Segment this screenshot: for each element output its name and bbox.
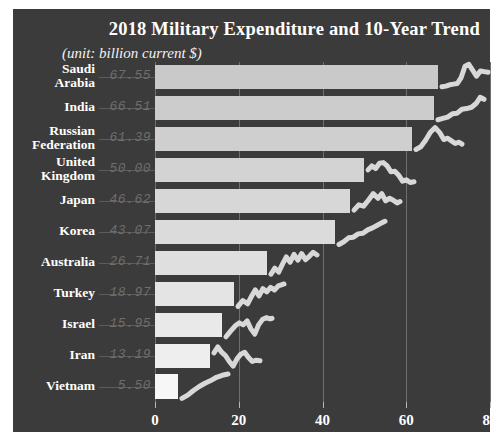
country-label-line: Kingdom <box>41 168 95 183</box>
chart-subtitle: (unit: billion current $) <box>62 45 202 62</box>
x-tick-label: 40 <box>315 412 330 429</box>
value-label: 67.55 <box>103 68 151 83</box>
value-label: 66.51 <box>103 99 151 114</box>
y-axis-country-label: Turkey <box>5 286 95 300</box>
bar <box>155 313 222 337</box>
y-axis-country-label: RussianFederation <box>5 124 95 152</box>
bar <box>155 189 350 213</box>
value-label: 26.71 <box>103 254 151 269</box>
bar <box>155 96 434 120</box>
sparkline <box>438 94 484 122</box>
tick-mark-20 <box>239 402 240 408</box>
x-tick-label: 60 <box>399 412 414 429</box>
sparkline-path <box>214 347 260 366</box>
bar <box>155 65 438 89</box>
plot-area: 020406080 <box>155 62 490 402</box>
bar <box>155 374 178 398</box>
sparkline <box>442 63 488 91</box>
sparkline-path <box>182 374 228 398</box>
country-label-line: Australia <box>41 254 95 269</box>
y-axis-country-label: Iran <box>5 348 95 362</box>
bar <box>155 158 364 182</box>
country-label-line: Israel <box>62 316 95 331</box>
sparkline <box>271 249 317 277</box>
bar <box>155 220 335 244</box>
sparkline-path <box>354 193 400 210</box>
country-label-line: Federation <box>32 137 95 152</box>
country-label-line: India <box>64 99 95 114</box>
tick-mark-80 <box>490 402 491 408</box>
bar <box>155 127 412 151</box>
y-axis-country-label: Israel <box>5 317 95 331</box>
country-label-line: Vietnam <box>46 378 95 393</box>
sparkline-path <box>438 97 484 119</box>
sparkline <box>354 187 400 215</box>
country-label-line: Iran <box>69 347 95 362</box>
sparkline <box>416 125 462 153</box>
sparkline-path <box>226 317 272 336</box>
x-tick-label: 80 <box>483 412 497 429</box>
country-label-line: Russian <box>49 123 95 138</box>
sparkline <box>182 372 228 400</box>
x-tick-label: 20 <box>231 412 246 429</box>
sparkline-path <box>442 65 488 87</box>
y-axis-country-label: Korea <box>5 224 95 238</box>
chart-panel: 2018 Military Expenditure and 10-Year Tr… <box>13 9 490 432</box>
sparkline <box>226 311 272 339</box>
y-axis-country-label: India <box>5 100 95 114</box>
country-label-line: Korea <box>59 223 95 238</box>
value-label: 13.19 <box>103 347 151 362</box>
value-label: 15.95 <box>103 316 151 331</box>
chart-title: 2018 Military Expenditure and 10-Year Tr… <box>13 19 480 40</box>
y-axis-country-label: Vietnam <box>5 379 95 393</box>
y-axis-country-label: Japan <box>5 193 95 207</box>
chart-figure: 2018 Military Expenditure and 10-Year Tr… <box>0 0 497 442</box>
country-label-line: Saudi <box>62 61 95 76</box>
sparkline-path <box>271 252 317 274</box>
value-label: 43.07 <box>103 223 151 238</box>
sparkline-path <box>339 221 385 244</box>
country-label-line: Arabia <box>55 75 96 90</box>
value-label: 46.62 <box>103 192 151 207</box>
value-label: 5.50 <box>103 378 151 393</box>
y-axis-country-label: Australia <box>5 255 95 269</box>
gridline-80 <box>490 62 491 402</box>
value-label: 61.39 <box>103 130 151 145</box>
sparkline-path <box>238 284 284 306</box>
country-label-line: Japan <box>60 192 95 207</box>
value-label: 50.00 <box>103 161 151 176</box>
sparkline-path <box>416 128 462 150</box>
y-axis-country-label: SaudiArabia <box>5 62 95 90</box>
value-label: 18.97 <box>103 285 151 300</box>
country-label-line: United <box>56 154 95 169</box>
bar <box>155 282 234 306</box>
sparkline <box>368 156 414 184</box>
x-tick-label: 0 <box>151 412 159 429</box>
sparkline <box>339 218 385 246</box>
country-label-line: Turkey <box>53 285 95 300</box>
tick-mark-60 <box>406 402 407 408</box>
sparkline <box>238 280 284 308</box>
bar <box>155 251 267 275</box>
y-axis-country-label: UnitedKingdom <box>5 155 95 183</box>
sparkline <box>214 341 260 369</box>
tick-mark-40 <box>323 402 324 408</box>
sparkline-path <box>368 163 414 183</box>
bar <box>155 344 210 368</box>
tick-mark-0 <box>155 402 156 408</box>
